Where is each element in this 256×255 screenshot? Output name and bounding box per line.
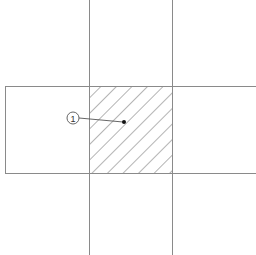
hatched-intersection-region — [89, 86, 172, 173]
callout-label: 1 — [70, 114, 75, 124]
callout-target-dot — [122, 120, 126, 124]
cross-diagram: 1 — [0, 0, 256, 255]
